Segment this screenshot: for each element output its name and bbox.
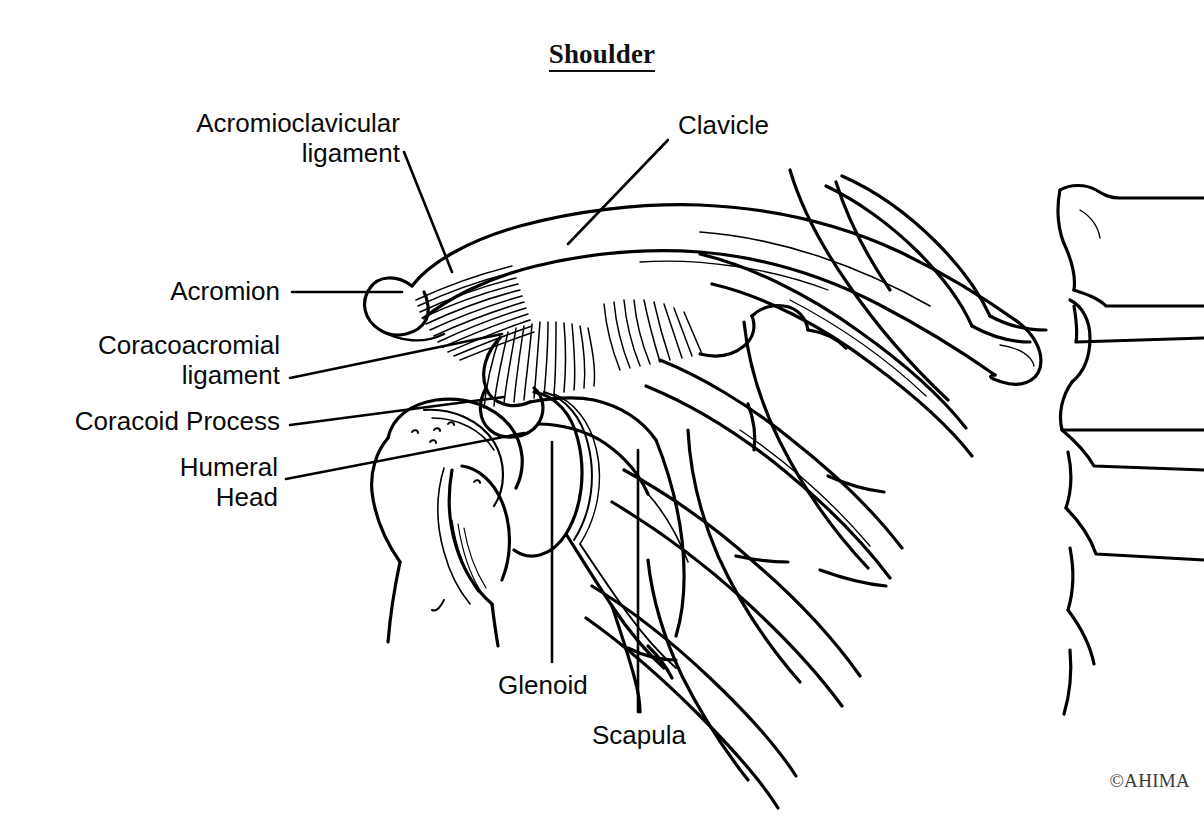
clavicle-sternal-end [991,322,1041,384]
leader-clavicle [568,140,668,244]
acromioclavicular-ligament-fibers [416,266,534,360]
acromion [365,278,444,340]
coracoacromial-ligament-fibers [484,300,702,408]
sternum [1058,186,1204,715]
leader-acromioclavicular-ligament [404,152,452,272]
copyright-credit: ©AHIMA [1109,770,1190,792]
leader-lines [286,140,668,712]
figure-canvas: Shoulder Acromioclavicular ligament Clav… [0,0,1204,814]
shoulder-anatomy-illustration [0,0,1204,814]
clavicle-bone [412,205,1018,375]
leader-humeral-head [286,433,524,479]
rib-cage [586,170,1046,808]
